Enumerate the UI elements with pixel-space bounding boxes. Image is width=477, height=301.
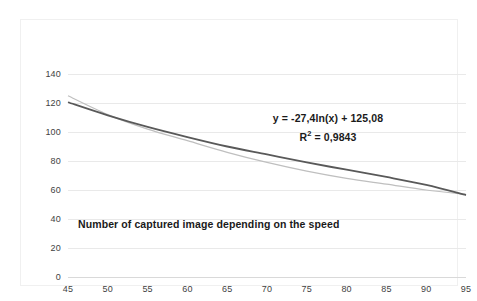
gridline — [68, 277, 466, 278]
x-tick-label: 60 — [182, 284, 192, 294]
x-tick-label: 45 — [63, 284, 73, 294]
r-squared-text: R2 = 0,9843 — [218, 126, 438, 145]
y-tick-label: 60 — [51, 185, 61, 195]
x-tick-label: 90 — [421, 284, 431, 294]
r-squared-value: = 0,9843 — [311, 131, 356, 143]
y-tick-label: 100 — [45, 127, 61, 137]
chart-container: 020406080100120140 455055606570758085909… — [0, 0, 477, 301]
x-tick-label: 50 — [103, 284, 113, 294]
y-tick-label: 140 — [45, 69, 61, 79]
x-tick-label: 80 — [341, 284, 351, 294]
chart-title: Number of captured image depending on th… — [78, 218, 339, 230]
x-tick-label: 75 — [302, 284, 312, 294]
plot-area: 020406080100120140 455055606570758085909… — [68, 74, 466, 277]
trendline-equation-annotation: y = -27,4ln(x) + 125,08 R2 = 0,9843 — [218, 110, 438, 145]
y-tick-label: 80 — [51, 156, 61, 166]
chart-frame: 020406080100120140 455055606570758085909… — [20, 19, 458, 286]
y-tick-label: 20 — [51, 243, 61, 253]
y-tick-label: 120 — [45, 98, 61, 108]
x-tick-label: 70 — [262, 284, 272, 294]
x-tick-label: 85 — [381, 284, 391, 294]
x-tick-label: 95 — [461, 284, 471, 294]
x-tick-label: 65 — [222, 284, 232, 294]
y-tick-label: 40 — [51, 214, 61, 224]
x-tick-label: 55 — [142, 284, 152, 294]
y-tick-label: 0 — [56, 272, 61, 282]
equation-text: y = -27,4ln(x) + 125,08 — [218, 110, 438, 126]
series-layer — [68, 74, 466, 277]
